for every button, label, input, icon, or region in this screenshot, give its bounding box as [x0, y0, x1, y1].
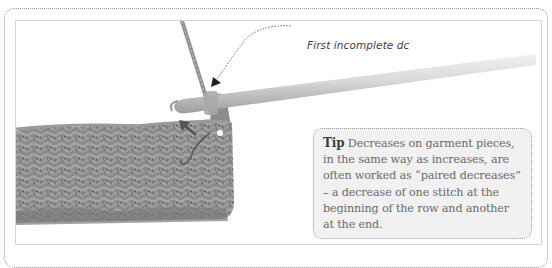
- callout-label-first-incomplete-dc: First incomplete dc: [307, 39, 410, 51]
- tip-label: Tip: [323, 136, 344, 150]
- callout-arrow-icon: [211, 26, 291, 87]
- crochet-swatch: [16, 94, 234, 226]
- highlight-dot: [217, 130, 223, 136]
- tip-body: Decreases on garment pieces, in the same…: [323, 137, 521, 231]
- crochet-hook: [171, 54, 536, 115]
- tip-paragraph: Tip Decreases on garment pieces, in the …: [323, 135, 523, 233]
- tip-box: Tip Decreases on garment pieces, in the …: [313, 128, 532, 239]
